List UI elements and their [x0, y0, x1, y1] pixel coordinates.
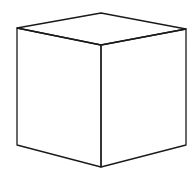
cube-left-face: [17, 28, 101, 167]
cube-top-face: [17, 13, 186, 45]
cube-drawing: [0, 0, 196, 175]
cube-right-face: [101, 29, 186, 167]
cube-diagram: [0, 0, 196, 175]
